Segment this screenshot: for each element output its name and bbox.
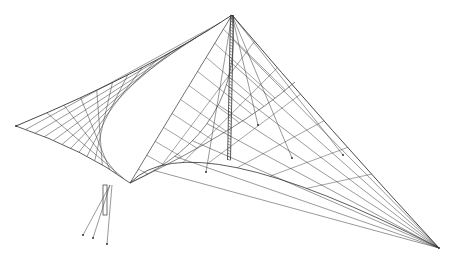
mast-lacing	[228, 153, 231, 155]
anchor-point	[291, 157, 293, 159]
mast-lacing	[230, 33, 233, 35]
mast-lacing	[230, 42, 233, 44]
central-cable	[198, 71, 253, 114]
mast-lacing	[228, 135, 231, 137]
anchor-point	[82, 234, 84, 236]
mast-lacing	[228, 150, 231, 152]
guy-line	[107, 185, 112, 244]
stay-cable	[232, 15, 292, 158]
mast-lacing	[229, 69, 232, 71]
mast-lacing	[229, 102, 232, 104]
central-cable	[147, 155, 165, 165]
right-wing-cable	[307, 174, 372, 188]
central-valley	[130, 15, 232, 183]
anchor-point	[106, 243, 108, 245]
central-cable	[138, 169, 148, 174]
drawing-canvas	[0, 0, 455, 259]
mast-lacing	[228, 132, 231, 134]
mast-lacing	[228, 138, 231, 140]
mast-lacing	[229, 108, 232, 110]
mast-lacing	[230, 45, 233, 47]
anchor-point	[205, 171, 207, 173]
left-wing-cable	[79, 67, 142, 152]
anchor-point	[15, 125, 17, 127]
central-cable	[164, 127, 198, 148]
left-wing-cable	[26, 22, 221, 129]
mast-lacing	[229, 99, 232, 101]
mast-lacing	[230, 48, 233, 50]
right-wing-radial	[207, 124, 439, 248]
mast-lacing	[228, 159, 231, 161]
mast-lacing	[229, 90, 232, 92]
left-upper-ridge	[16, 15, 232, 126]
left-wing-cable	[64, 105, 117, 174]
mast-lacing	[229, 93, 232, 95]
central-cable	[181, 100, 227, 132]
right-wing-radial	[175, 156, 439, 248]
mast-lacing	[229, 84, 232, 86]
right-wing-cable	[162, 41, 255, 165]
right-wing-radial	[231, 63, 439, 248]
mast-lacing	[229, 81, 232, 83]
right-upper-ridge	[232, 15, 439, 248]
mast-lacing	[229, 105, 232, 107]
mast-lacing	[230, 30, 233, 32]
right-wing-radial	[154, 170, 439, 248]
right-wing-radial	[226, 85, 439, 248]
mast-lacing	[230, 39, 233, 41]
mast-lacing	[228, 123, 231, 125]
mast-lacing	[228, 117, 231, 119]
right-wing-cable	[208, 94, 300, 163]
right-wing-radial	[233, 40, 439, 248]
mast-lacing	[229, 87, 232, 89]
anchor-point	[342, 154, 344, 156]
central-cable	[206, 57, 264, 106]
mast-lacing	[228, 141, 231, 143]
left-lower-edge	[16, 126, 130, 183]
mast-lacing	[228, 144, 231, 146]
mast-lacing	[228, 120, 231, 122]
right-wing-cable	[270, 147, 348, 176]
mast-lacing	[230, 51, 233, 53]
tent-structure-drawing	[0, 0, 455, 259]
right-wing-cable	[237, 121, 324, 168]
mast-lacing	[228, 156, 231, 158]
anchor-point	[257, 124, 259, 126]
mast-lacing	[228, 126, 231, 128]
anchor-point	[438, 247, 440, 249]
mast-lacing	[229, 75, 232, 77]
left-wing-cable	[87, 75, 128, 156]
left-wing-cable	[47, 113, 124, 179]
anchor-point	[92, 237, 94, 239]
